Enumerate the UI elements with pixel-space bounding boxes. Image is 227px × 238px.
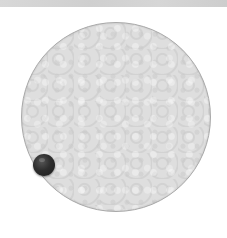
player-ball[interactable] bbox=[33, 154, 55, 176]
game-stage bbox=[0, 0, 227, 238]
top-strip bbox=[0, 0, 227, 7]
ball-highlight bbox=[39, 158, 45, 162]
circular-arena[interactable] bbox=[21, 22, 211, 212]
